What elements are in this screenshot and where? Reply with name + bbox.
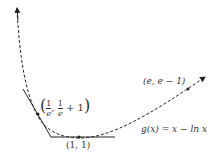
- function-label: g(x) = x − ln x: [141, 124, 207, 134]
- point-e: [187, 88, 190, 91]
- function-curve: [17, 10, 205, 138]
- point-label-1-1: (1, 1): [66, 140, 90, 150]
- point-label-1-over-e: (1e, 1e + 1): [40, 96, 90, 118]
- point-label-e: (e, e − 1): [143, 76, 185, 86]
- diagram-canvas: [0, 0, 224, 162]
- point-1-1: [78, 136, 81, 139]
